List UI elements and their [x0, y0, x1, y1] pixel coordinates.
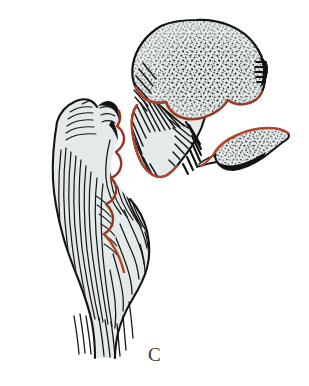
- lesser-trochanter-fragment: [197, 122, 295, 178]
- anatomical-figure: C: [0, 0, 309, 386]
- femur-fracture-illustration: [0, 0, 309, 386]
- figure-label: C: [0, 345, 309, 364]
